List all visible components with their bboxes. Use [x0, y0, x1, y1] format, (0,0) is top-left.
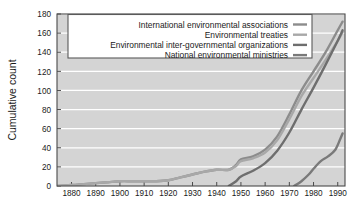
y-tick-label: 100	[37, 87, 51, 96]
y-tick-label: 140	[37, 48, 51, 57]
y-axis-label: Cumulative count	[6, 59, 18, 140]
x-tick-label: 1980	[304, 189, 323, 198]
legend-label: International environmental associations	[139, 20, 288, 30]
chart-figure: 1880189019001910192019301940195019601970…	[0, 0, 356, 211]
legend-label: Environmental inter-governmental organiz…	[110, 40, 288, 50]
chart-legend: International environmental associations…	[68, 15, 312, 61]
x-tick-label: 1970	[280, 189, 299, 198]
y-tick-label: 60	[42, 125, 52, 134]
x-tick-label: 1920	[159, 189, 178, 198]
y-tick-label: 40	[42, 144, 52, 153]
x-tick-label: 1880	[62, 189, 81, 198]
y-tick-label: 20	[42, 163, 52, 172]
x-tick-label: 1990	[329, 189, 348, 198]
y-tick-label: 120	[37, 68, 51, 77]
legend-label: National environmental ministries	[165, 50, 288, 60]
x-tick-label: 1930	[183, 189, 202, 198]
x-tick-label: 1950	[232, 189, 251, 198]
y-tick-label: 0	[46, 182, 51, 191]
x-tick-label: 1940	[208, 189, 227, 198]
cumulative-count-line-chart: 1880189019001910192019301940195019601970…	[0, 0, 356, 211]
x-tick-label: 1900	[111, 189, 130, 198]
y-tick-label: 80	[42, 106, 52, 115]
legend-label: Environmental treaties	[205, 30, 288, 40]
x-tick-label: 1960	[256, 189, 275, 198]
y-tick-label: 180	[37, 10, 51, 19]
x-tick-label: 1890	[87, 189, 106, 198]
y-tick-label: 160	[37, 29, 51, 38]
x-tick-label: 1910	[135, 189, 154, 198]
